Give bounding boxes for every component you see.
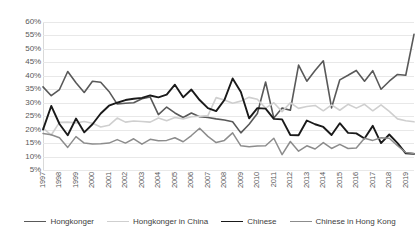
legend-item[interactable]: Hongkonger in China xyxy=(107,217,208,226)
x-axis-tick-label: 2000 xyxy=(88,172,96,188)
x-axis-tick-label: 2006 xyxy=(187,172,195,188)
legend-swatch-icon xyxy=(107,221,129,222)
x-axis-tick-label: 2001 xyxy=(105,172,113,188)
x-axis-tick-label: 2008 xyxy=(220,172,228,188)
legend-swatch-icon xyxy=(24,221,46,222)
x-axis-tick-label: 2005 xyxy=(171,172,179,188)
x-axis-tick-label: 1998 xyxy=(55,172,63,188)
legend-item[interactable]: Chinese in Hong Kong xyxy=(290,217,396,226)
series-line xyxy=(43,128,414,154)
y-axis-tick-label: 40% xyxy=(3,72,41,80)
series-line xyxy=(43,79,414,154)
legend-item[interactable]: Chinese xyxy=(221,217,276,226)
x-axis-tick-label: 2017 xyxy=(369,172,377,188)
x-axis-tick-label: 2012 xyxy=(286,172,294,188)
legend-swatch-icon xyxy=(290,221,312,222)
x-axis-tick-label: 2013 xyxy=(303,172,311,188)
series-lines xyxy=(43,22,414,170)
x-axis-tick-label: 2002 xyxy=(121,172,129,188)
x-axis: 1997199819992000200120022003200420052006… xyxy=(43,172,414,210)
x-axis-tick-label: 2007 xyxy=(204,172,212,188)
chart-legend: HongkongerHongkonger in ChinaChineseChin… xyxy=(0,213,420,229)
y-axis-tick-label: 30% xyxy=(3,99,41,107)
y-axis-tick-label: 15% xyxy=(3,139,41,147)
legend-label: Chinese in Hong Kong xyxy=(316,217,396,226)
y-axis-tick-label: 20% xyxy=(3,126,41,134)
x-axis-tick-label: 2016 xyxy=(352,172,360,188)
x-axis-tick-label: 1999 xyxy=(72,172,80,188)
gridline xyxy=(43,170,414,171)
legend-label: Hongkonger xyxy=(50,217,94,226)
legend-label: Hongkonger in China xyxy=(133,217,208,226)
y-axis-tick-label: 35% xyxy=(3,85,41,93)
x-axis-tick-label: 2010 xyxy=(253,172,261,188)
x-axis-tick-label: 2018 xyxy=(385,172,393,188)
legend-label: Chinese xyxy=(247,217,276,226)
x-axis-tick-label: 2019 xyxy=(402,172,410,188)
x-axis-tick-label: 2003 xyxy=(138,172,146,188)
y-axis: 60%55%50%45%40%35%30%25%20%15%10%5% xyxy=(0,0,41,239)
y-axis-tick-label: 5% xyxy=(3,166,41,174)
legend-swatch-icon xyxy=(221,221,243,222)
plot-area xyxy=(43,22,414,170)
y-axis-tick-label: 25% xyxy=(3,112,41,120)
x-axis-tick-label: 1997 xyxy=(39,172,47,188)
y-axis-tick-label: 45% xyxy=(3,58,41,66)
x-axis-tick-label: 2015 xyxy=(336,172,344,188)
series-line xyxy=(43,34,414,132)
x-axis-tick-label: 2014 xyxy=(319,172,327,188)
y-axis-tick-label: 60% xyxy=(3,18,41,26)
x-axis-tick-label: 2009 xyxy=(237,172,245,188)
y-axis-tick-label: 55% xyxy=(3,31,41,39)
line-chart: 60%55%50%45%40%35%30%25%20%15%10%5% 1997… xyxy=(0,0,420,239)
x-axis-tick-label: 2004 xyxy=(154,172,162,188)
x-axis-tick-label: 2011 xyxy=(270,172,278,187)
y-axis-tick-label: 50% xyxy=(3,45,41,53)
y-axis-tick-label: 10% xyxy=(3,153,41,161)
legend-item[interactable]: Hongkonger xyxy=(24,217,94,226)
